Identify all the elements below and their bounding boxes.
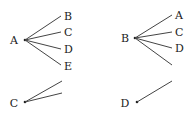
branch-label: D <box>175 42 184 55</box>
root-label: D <box>121 97 130 110</box>
branch-label: C <box>175 26 183 39</box>
branch-edge <box>25 81 62 102</box>
branch-edge <box>25 40 61 49</box>
branch-edge <box>135 38 172 65</box>
root-label: C <box>10 97 18 110</box>
branch-label: A <box>174 9 184 22</box>
tree-d: D <box>121 81 172 110</box>
branch-edge <box>135 38 172 48</box>
branch-label: B <box>64 10 72 23</box>
root-label: A <box>9 34 19 47</box>
tree-a: ABCDE <box>9 10 73 73</box>
root-label: B <box>121 32 129 45</box>
branch-label: E <box>64 60 72 73</box>
branch-label: D <box>64 43 73 56</box>
branch-edge <box>25 93 62 102</box>
tree-diagram: ABCDEBACDCD <box>0 0 195 116</box>
tree-b: BACD <box>121 9 184 65</box>
branch-edge <box>25 40 61 65</box>
branch-label: C <box>64 26 72 39</box>
tree-c: C <box>10 81 62 110</box>
branch-edge <box>137 81 172 102</box>
